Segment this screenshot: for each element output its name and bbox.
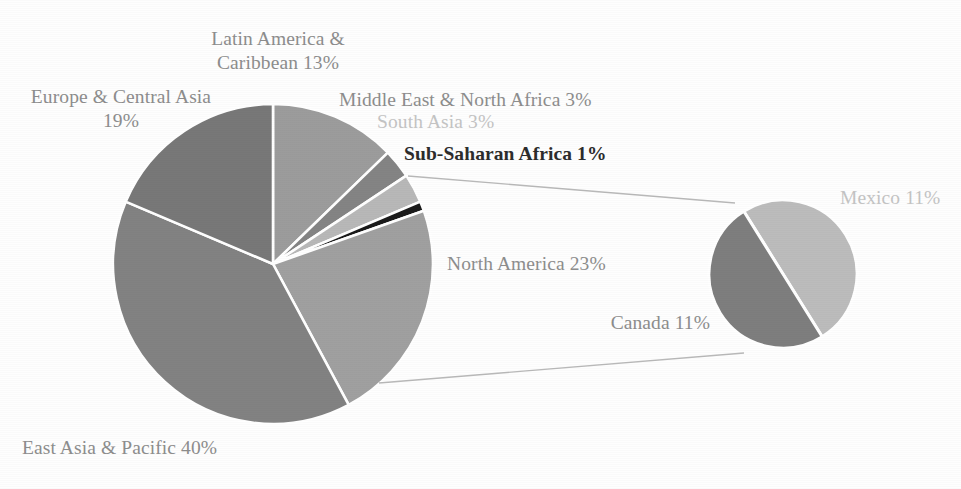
leader-line-bottom [379,353,744,383]
slice-label-europe-central-asia: Europe & Central Asia19% [6,85,236,133]
slice-label-east-asia-pacific: East Asia & Pacific 40% [22,436,322,460]
north-america-breakdown-pie [709,200,857,348]
slice-label-north-america: North America 23% [447,252,687,276]
pie-chart-figure: Latin America &Caribbean 13% Europe & Ce… [0,0,961,489]
slice-label-south-asia: South Asia 3% [377,110,597,134]
slice-label-canada: Canada 11% [515,311,710,335]
slice-label-latin-america: Latin America &Caribbean 13% [188,27,368,75]
pie-chart-svg [0,0,961,489]
leader-lines [379,176,744,383]
main-pie [113,104,433,424]
leader-line-top [408,176,735,203]
slice-label-sub-saharan-africa: Sub-Saharan Africa 1% [404,142,674,166]
slice-label-mexico: Mexico 11% [840,186,961,210]
slice-label-middle-east-north-africa: Middle East & North Africa 3% [339,88,639,112]
